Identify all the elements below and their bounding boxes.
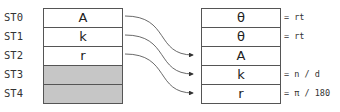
- after-cell-st4: r: [202, 85, 280, 103]
- arrow-st2-to-st4: [125, 54, 193, 93]
- after-cell-st3: k: [202, 66, 280, 85]
- note-st1: = rt: [284, 27, 304, 46]
- note-st4: = π / 180: [284, 84, 330, 103]
- after-cell-st2: A: [202, 47, 280, 66]
- note-st3: = n / d: [284, 65, 320, 84]
- stack-after: θ θ A k r: [201, 8, 281, 104]
- after-cell-st0: θ: [202, 9, 280, 28]
- after-cell-st1: θ: [202, 28, 280, 47]
- note-st0: = rt: [284, 8, 304, 27]
